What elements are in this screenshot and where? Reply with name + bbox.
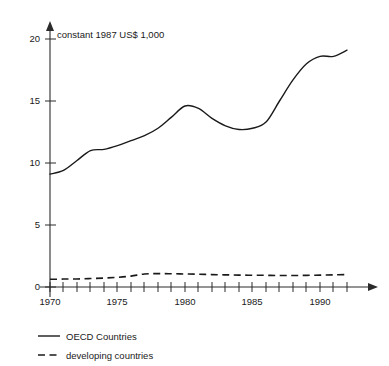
line-chart-svg: 0 5 10 15 20 constant 1987 US$ 1,000 xyxy=(0,0,389,366)
x-ticklabel-1975: 1975 xyxy=(106,296,127,307)
legend-label-developing-countries: developing countries xyxy=(66,350,153,361)
y-axis-arrow-icon xyxy=(46,21,54,31)
x-axis-ticklabels: 1970 1975 1980 1985 1990 xyxy=(39,296,330,307)
x-axis-arrow-icon xyxy=(368,283,378,291)
series-line-developing-countries xyxy=(50,274,347,280)
y-ticklabel-0: 0 xyxy=(35,281,40,292)
x-ticklabel-1970: 1970 xyxy=(39,296,60,307)
y-ticklabel-20: 20 xyxy=(29,33,40,44)
x-ticklabel-1985: 1985 xyxy=(241,296,262,307)
chart-legend: OECD Countries developing countries xyxy=(38,331,153,361)
y-axis xyxy=(46,21,54,297)
x-axis xyxy=(40,283,378,291)
y-axis-unit-label: constant 1987 US$ 1,000 xyxy=(57,29,164,40)
x-ticklabel-1990: 1990 xyxy=(309,296,330,307)
chart-figure: 0 5 10 15 20 constant 1987 US$ 1,000 xyxy=(0,0,389,366)
series-line-oecd-countries xyxy=(50,50,347,174)
y-ticklabel-5: 5 xyxy=(35,219,40,230)
legend-item-developing-countries: developing countries xyxy=(38,350,153,361)
x-ticklabel-1980: 1980 xyxy=(174,296,195,307)
y-ticklabel-15: 15 xyxy=(29,95,40,106)
y-axis-ticklabels: 0 5 10 15 20 xyxy=(29,33,40,292)
legend-label-oecd-countries: OECD Countries xyxy=(66,331,137,342)
legend-item-oecd-countries: OECD Countries xyxy=(38,331,137,342)
y-ticklabel-10: 10 xyxy=(29,157,40,168)
